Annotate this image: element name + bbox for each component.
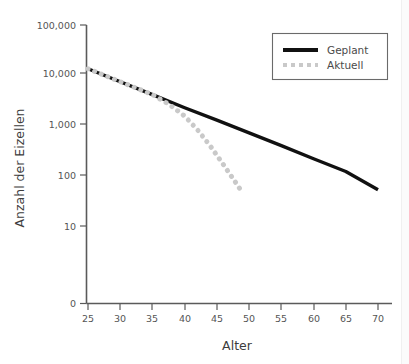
legend-box — [273, 34, 388, 80]
x-tick-label-70: 70 — [372, 313, 384, 324]
legend-label-geplant: Geplant — [327, 44, 368, 56]
x-tick-label-50: 50 — [243, 313, 255, 324]
y-tick-label-100: 100 — [58, 170, 76, 181]
series-line-geplant — [88, 69, 378, 190]
x-tick-label-30: 30 — [114, 313, 126, 324]
y-axis-ticks — [80, 25, 87, 304]
y-tick-label-100000: 100,000 — [37, 20, 76, 31]
x-tick-label-65: 65 — [340, 313, 352, 324]
chart-container: 100,000 10,000 1,000 100 10 0 25 30 35 4… — [0, 0, 409, 364]
x-tick-label-45: 45 — [211, 313, 223, 324]
x-tick-label-55: 55 — [275, 313, 287, 324]
x-tick-label-35: 35 — [146, 313, 158, 324]
x-tick-label-25: 25 — [82, 313, 94, 324]
series-line-aktuell — [88, 69, 243, 193]
y-axis-title: Anzahl der Eizellen — [12, 109, 27, 228]
y-tick-label-0: 0 — [70, 298, 76, 309]
y-tick-label-10000: 10,000 — [43, 68, 76, 79]
x-axis-title: Alter — [222, 338, 253, 353]
legend-label-aktuell: Aktuell — [327, 59, 363, 71]
series-layer — [88, 69, 378, 193]
y-tick-label-1000: 1,000 — [49, 119, 76, 130]
y-tick-label-10: 10 — [64, 221, 76, 232]
page-right-edge — [401, 0, 409, 364]
x-tick-label-60: 60 — [308, 313, 320, 324]
x-axis-ticks — [88, 304, 378, 311]
chart-canvas: 100,000 10,000 1,000 100 10 0 25 30 35 4… — [0, 0, 409, 364]
x-tick-label-40: 40 — [179, 313, 191, 324]
legend[interactable]: Geplant Aktuell — [273, 34, 388, 80]
